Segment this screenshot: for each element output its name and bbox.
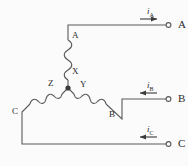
current-ia-label: iA [147, 7, 154, 18]
current-ia-subscript: A [150, 12, 154, 18]
winding-label-b: B [109, 110, 115, 119]
current-ic-label: iC [147, 125, 154, 136]
wye-connection-diagram: A B C iA iB iC A X Z Y C B [0, 0, 188, 166]
current-ib-label: iB [147, 81, 154, 92]
terminal-c-marker[interactable] [166, 142, 171, 147]
terminal-b-label: B [178, 93, 185, 104]
winding-label-c: C [12, 107, 18, 116]
winding-label-a: A [72, 31, 79, 40]
star-point-node [65, 85, 70, 90]
current-ic-subscript: C [150, 130, 154, 136]
current-ib-subscript: B [150, 86, 154, 92]
terminal-a-label: A [178, 19, 186, 30]
terminal-a-marker[interactable] [166, 23, 171, 28]
terminal-c-label: C [178, 138, 185, 149]
diagram-canvas [0, 0, 188, 166]
winding-label-x: X [72, 67, 79, 76]
winding-label-y: Y [80, 80, 87, 89]
winding-label-z: Z [48, 79, 54, 88]
terminal-b-marker[interactable] [166, 97, 171, 102]
